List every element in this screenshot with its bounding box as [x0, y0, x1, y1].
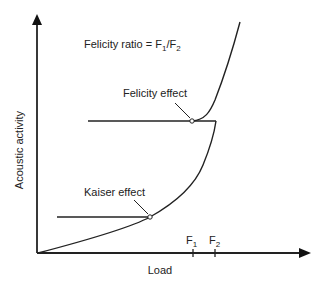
x-axis-arrow-icon — [299, 248, 311, 258]
felicity-ratio-formula: Felicity ratio = F1/F2 — [84, 38, 181, 53]
felicity-effect-label: Felicity effect — [123, 87, 187, 99]
kaiser-point-marker — [148, 215, 152, 219]
y-axis-label: Acoustic activity — [13, 110, 25, 189]
y-axis-arrow-icon — [32, 14, 42, 25]
tick-label-f1: F1 — [186, 234, 198, 249]
kaiser-effect-label: Kaiser effect — [84, 186, 145, 198]
felicity-leader — [175, 103, 190, 118]
x-axis-label: Load — [148, 264, 172, 276]
felicity-kaiser-diagram: Felicity ratio = F1/F2 Felicity effect K… — [0, 0, 323, 286]
tick-label-f2: F2 — [209, 234, 221, 249]
loading-curve-continued — [192, 22, 240, 121]
felicity-point-marker — [190, 119, 194, 123]
kaiser-leader — [134, 200, 148, 214]
